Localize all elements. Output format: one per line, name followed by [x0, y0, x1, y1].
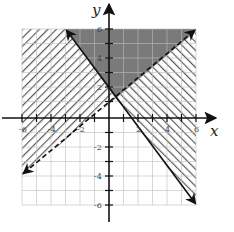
y-tick-label: -4	[94, 172, 102, 181]
x-tick-label: 6	[194, 125, 199, 134]
x-tick-label: -6	[19, 125, 27, 134]
y-axis-label: y	[91, 1, 101, 19]
y-tick-label: -2	[94, 143, 102, 152]
x-tick-label: 4	[165, 125, 170, 134]
y-tick-label: 6	[97, 25, 102, 34]
x-tick-label: -4	[48, 125, 56, 134]
y-tick-label: -6	[94, 201, 102, 210]
y-tick-label: 4	[97, 54, 102, 63]
x-tick-label: -2	[77, 125, 85, 134]
x-axis-label: x	[210, 122, 219, 140]
x-tick-label: 2	[136, 125, 141, 134]
inequality-graph: -6 -4 -2 2 4 6 6 4 2 -2 -4 -6 x y	[0, 0, 234, 232]
y-tick-label: 2	[97, 83, 102, 92]
